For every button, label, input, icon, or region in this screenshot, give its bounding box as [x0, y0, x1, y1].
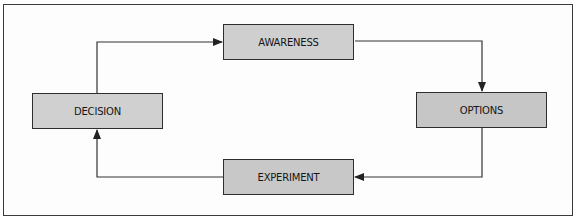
node-experiment: EXPERIMENT	[223, 159, 354, 195]
node-decision: DECISION	[32, 93, 163, 129]
node-experiment-label: EXPERIMENT	[258, 172, 320, 183]
node-options-label: OPTIONS	[460, 105, 503, 116]
arrow-awareness-to-options	[355, 41, 482, 91]
node-awareness: AWARENESS	[223, 24, 354, 60]
node-decision-label: DECISION	[74, 106, 121, 117]
node-awareness-label: AWARENESS	[258, 37, 318, 48]
arrow-options-to-experiment	[355, 128, 482, 177]
arrow-decision-to-awareness	[97, 42, 222, 93]
arrow-experiment-to-decision	[97, 130, 223, 177]
node-options: OPTIONS	[416, 92, 547, 128]
